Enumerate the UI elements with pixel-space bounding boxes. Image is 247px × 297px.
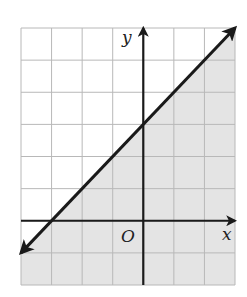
inequality-graph: y x O <box>0 0 247 297</box>
y-axis-label: y <box>121 27 132 47</box>
x-axis-label: x <box>222 224 232 244</box>
origin-label: O <box>121 226 135 246</box>
